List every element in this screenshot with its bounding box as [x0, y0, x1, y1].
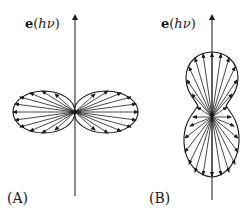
paren-close: ): [191, 16, 196, 31]
panel-label-a: (A): [7, 191, 28, 205]
origin-b: [210, 113, 214, 117]
panel-label-b: (B): [149, 191, 170, 205]
origin-a: [73, 110, 77, 114]
panel-b: [184, 17, 239, 200]
frequency-symbol: ν: [183, 16, 191, 31]
panel-a: [13, 17, 138, 196]
polarization-label-b: e(hν): [161, 17, 196, 30]
diagram-canvas: [0, 0, 247, 218]
frequency-symbol: ν: [47, 16, 55, 31]
planck-symbol: h: [174, 16, 182, 31]
paren-close: ): [55, 16, 60, 31]
photoemission-angular-distribution-figure: e(hν) e(hν) (A) (B): [0, 0, 247, 218]
planck-symbol: h: [38, 16, 46, 31]
polarization-label-a: e(hν): [25, 17, 60, 30]
